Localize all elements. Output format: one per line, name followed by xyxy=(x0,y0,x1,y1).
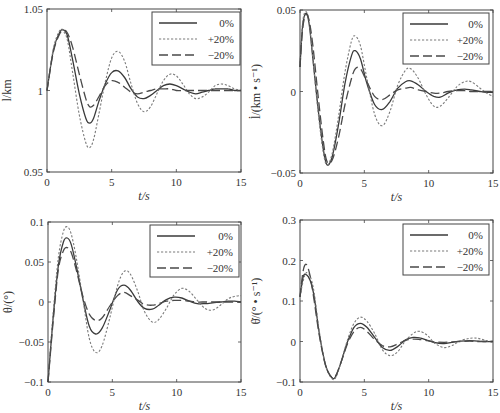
y-tick-label: 0.2 xyxy=(282,255,296,267)
legend-label: +20% xyxy=(457,245,483,257)
legend-label: −20% xyxy=(457,261,483,273)
y-tick-label: 0 xyxy=(291,336,297,348)
x-tick-label: 5 xyxy=(362,386,368,398)
y-tick-label: −0.1 xyxy=(276,376,296,388)
legend: 0%+20%−20% xyxy=(403,224,489,275)
series-line-solid xyxy=(300,274,493,379)
series-line-dashed xyxy=(300,264,493,378)
x-axis-label: t/s xyxy=(391,399,403,413)
y-axis-label: θ̇/(° • s⁻¹) xyxy=(249,278,263,325)
x-tick-label: 15 xyxy=(488,386,500,398)
x-tick-label: 10 xyxy=(423,386,435,398)
legend-label: 0% xyxy=(468,229,483,241)
series-line-dotted xyxy=(300,272,493,379)
x-tick-label: 0 xyxy=(297,386,303,398)
y-tick-label: 0.3 xyxy=(282,214,296,226)
chart-thetadot-svg: 051015−0.100.10.20.3t/sθ̇/(° • s⁻¹)0%+20… xyxy=(0,0,500,413)
plot-area xyxy=(300,264,493,380)
y-tick-label: 0.1 xyxy=(282,295,296,307)
chart-theta-rate: 051015−0.100.10.20.3t/sθ̇/(° • s⁻¹)0%+20… xyxy=(0,0,500,413)
